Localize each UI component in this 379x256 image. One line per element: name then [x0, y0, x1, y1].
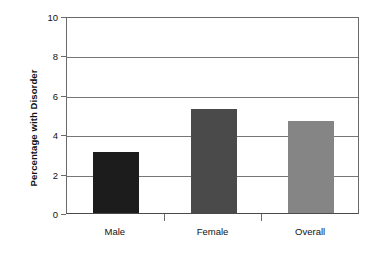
bar-female — [191, 109, 237, 213]
bar-chart: Percentage with Disorder 0246810 MaleFem… — [0, 0, 379, 256]
x-axis-label-male: Male — [105, 226, 126, 237]
category-separator-tick — [164, 214, 165, 221]
y-axis-tick-label: 4 — [18, 130, 58, 141]
y-axis-tick-label: 10 — [18, 12, 58, 23]
bar-overall — [288, 121, 334, 213]
gridline — [67, 97, 358, 98]
y-axis-tick-label: 0 — [18, 209, 58, 220]
x-axis-label-overall: Overall — [295, 226, 325, 237]
plot-area — [66, 17, 359, 214]
y-axis-tick-mark — [61, 214, 66, 215]
gridline — [67, 57, 358, 58]
y-axis-tick-label: 8 — [18, 51, 58, 62]
y-axis-tick-label: 2 — [18, 169, 58, 180]
y-axis-tick-label: 6 — [18, 90, 58, 101]
x-axis-label-female: Female — [197, 226, 229, 237]
category-separator-tick — [261, 214, 262, 221]
bar-male — [93, 152, 139, 213]
